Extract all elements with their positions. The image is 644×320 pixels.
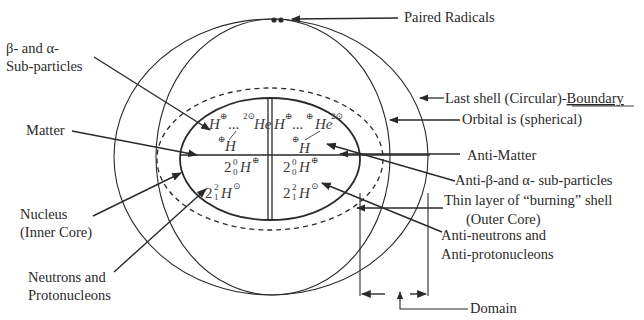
atom-structure-diagram: Paired Radicals β- and α- Sub-particles … <box>0 0 644 320</box>
symbol-h: H <box>298 185 311 201</box>
label-last-shell: Last shell (Circular)-Boundary <box>445 90 625 107</box>
symbol-h: H <box>298 140 311 156</box>
atomic-number: 1 <box>292 192 297 202</box>
label-domain: Domain <box>470 300 517 316</box>
charge-positive: ⊕ <box>252 155 260 165</box>
label-matter: Matter <box>26 122 65 138</box>
mass-number: 0 <box>292 157 297 167</box>
ellipsis: ... <box>228 116 239 132</box>
matter-deuteron-formula: 2 2 1 H ⊙ <box>205 181 241 202</box>
label-neutrons-line2: Protonucleons <box>28 287 111 303</box>
outer-core-dashed-shell <box>157 88 383 230</box>
label-last-shell-prefix: Last shell (Circular)- <box>445 90 567 107</box>
antimatter-deuteron-formula: 2 2 1 H ⊙ <box>283 181 319 202</box>
label-anti-matter: Anti-Matter <box>467 147 536 163</box>
label-beta-alpha-line1: β- and α- <box>6 40 59 56</box>
radical-dot-2 <box>278 17 283 22</box>
coefficient: 2 <box>283 159 291 175</box>
ellipsis: ... <box>292 116 303 132</box>
matter-top-formula: H ⊕ ... 2⊙ He <box>208 111 272 132</box>
label-thin-layer-line2: (Outer Core) <box>466 211 541 228</box>
orbital-shell <box>156 19 390 295</box>
label-neutrons-line1: Neutrons and <box>28 269 106 285</box>
antimatter-hydrogen: ⊕ H <box>292 134 311 156</box>
atomic-number: 0 <box>292 167 297 177</box>
radical-dot-1 <box>271 17 276 22</box>
label-orbital: Orbital is (spherical) <box>462 111 582 128</box>
label-nucleus-line1: Nucleus <box>20 206 68 222</box>
arrow-matter <box>72 131 197 155</box>
mass-number: 0 <box>233 157 238 167</box>
label-anti-neutrons-line2: Anti-protonucleons <box>441 246 554 262</box>
atomic-number: 0 <box>233 167 238 177</box>
symbol-he: He <box>314 116 333 132</box>
atomic-number: 1 <box>214 192 219 202</box>
matter-neutron-formula: 2 0 0 H ⊕ <box>224 155 260 177</box>
matter-hydrogen: ⊕ H <box>218 134 237 154</box>
charge-positive: ⊕ <box>306 111 314 121</box>
label-paired-radicals: Paired Radicals <box>404 9 495 25</box>
symbol-h: H <box>298 159 311 175</box>
arrow-neutrons <box>114 189 206 272</box>
label-beta-alpha-line2: Sub-particles <box>6 58 83 74</box>
charge-neutral: ⊙ <box>233 181 241 191</box>
label-thin-layer-line1: Thin layer of “burning” shell <box>444 192 612 208</box>
mass-number: 2⊙ <box>331 111 343 121</box>
symbol-h: H <box>220 185 233 201</box>
antimatter-top-formula: H ⊕ ... ⊕ He 2⊙ <box>273 111 343 132</box>
mass-number: 2 <box>292 182 297 192</box>
symbol-h: H <box>239 159 252 175</box>
symbol-he: He <box>253 116 272 132</box>
coefficient: 2 <box>205 185 213 201</box>
label-last-shell-boundary: Boundary <box>567 90 625 106</box>
connector-right-he-h <box>305 131 320 140</box>
charge-neutral: ⊙ <box>311 181 319 191</box>
label-anti-neutrons-line1: Anti-neutrons and <box>441 227 547 243</box>
charge-positive: ⊕ <box>220 111 228 121</box>
symbol-h: H <box>224 138 237 154</box>
arrow-nucleus <box>93 173 181 216</box>
mass-number: 2 <box>214 182 219 192</box>
arrow-anti-beta-alpha <box>327 144 455 181</box>
charge-positive: ⊕ <box>311 155 319 165</box>
coefficient: 2 <box>224 159 232 175</box>
label-anti-beta-alpha: Anti-β-and α- sub-particles <box>455 172 613 188</box>
arrow-beta-alpha <box>94 57 210 130</box>
antimatter-neutron-formula: 2 0 0 H ⊕ <box>283 155 319 177</box>
arrow-paired-radicals <box>292 18 398 19</box>
label-nucleus-line2: (Inner Core) <box>20 224 92 241</box>
coefficient: 2 <box>283 185 291 201</box>
last-shell-boundary <box>114 19 428 295</box>
